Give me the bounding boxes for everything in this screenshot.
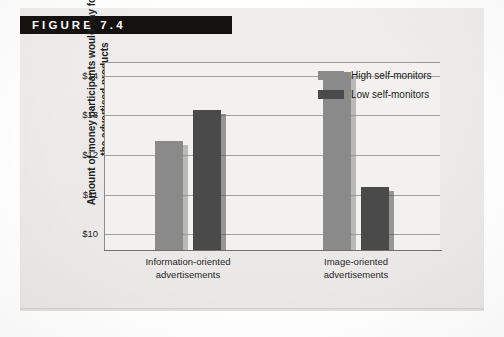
bar-side-edge [221,114,226,251]
x-axis-category-label: Image-orientedadvertisements [286,256,426,281]
y-axis-tick-label: $12 [66,150,98,160]
y-axis-tick-label: $14 [66,71,98,81]
y-axis-tick-label: $11 [66,190,98,200]
legend-item: Low self-monitors [318,87,432,102]
x-axis-category-labels: Information-orientedadvertisementsImage-… [104,256,440,296]
chart-legend: High self-monitorsLow self-monitors [318,68,432,106]
figure-root: FIGURE 7.4 Amount of money participants … [0,0,504,337]
bar-face [361,187,389,250]
y-axis-tick-label: $13 [66,110,98,120]
x-axis-category-label-line: Information-oriented [118,256,258,269]
legend-label: Low self-monitors [351,89,429,100]
figure-number-label: FIGURE 7.4 [32,18,126,32]
x-axis-category-label-line: Image-oriented [286,256,426,269]
legend-label: High self-monitors [351,70,432,81]
bar [193,110,221,251]
y-axis-tick-label: $10 [66,229,98,239]
bar-side-edge [389,191,394,250]
bar-side-edge [183,145,188,250]
bar [155,141,183,250]
legend-item: High self-monitors [318,68,432,83]
x-axis-category-label: Information-orientedadvertisements [118,256,258,281]
x-axis-line [104,250,442,251]
bar-face [193,110,221,251]
legend-swatch [318,90,344,99]
panel-shadow [20,308,484,311]
bar-face [155,141,183,250]
x-axis-category-label-line: advertisements [118,269,258,282]
x-axis-category-label-line: advertisements [286,269,426,282]
bar [361,187,389,250]
figure-header-bar: FIGURE 7.4 [20,16,232,34]
legend-swatch [318,71,344,80]
